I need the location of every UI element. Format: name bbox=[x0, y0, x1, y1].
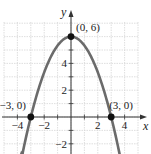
point-dot bbox=[108, 114, 115, 121]
x-tick-label: −4 bbox=[12, 119, 24, 131]
y-tick-label: −2 bbox=[55, 138, 67, 150]
y-tick-label: 2 bbox=[62, 84, 68, 96]
point-label: (−3, 0) bbox=[0, 99, 26, 112]
axes bbox=[2, 10, 147, 154]
point-label: (3, 0) bbox=[109, 99, 133, 112]
point-label: (0, 6) bbox=[76, 21, 100, 34]
point-dot bbox=[68, 33, 75, 40]
labeled-points: (−3, 0)(0, 6)(3, 0) bbox=[0, 21, 133, 121]
x-tick-label: 4 bbox=[122, 119, 128, 131]
y-tick-label: 4 bbox=[62, 57, 68, 69]
parabola-graph: −4−224−224 (−3, 0)(0, 6)(3, 0) x y bbox=[0, 0, 151, 154]
x-tick-label: −2 bbox=[38, 119, 50, 131]
y-axis-label: y bbox=[60, 5, 67, 19]
y-axis-arrow-icon bbox=[69, 10, 74, 17]
point-dot bbox=[27, 114, 34, 121]
x-axis-label: x bbox=[142, 119, 149, 133]
axis-ticks: −4−224−224 bbox=[12, 37, 128, 150]
x-tick-label: 2 bbox=[95, 119, 101, 131]
